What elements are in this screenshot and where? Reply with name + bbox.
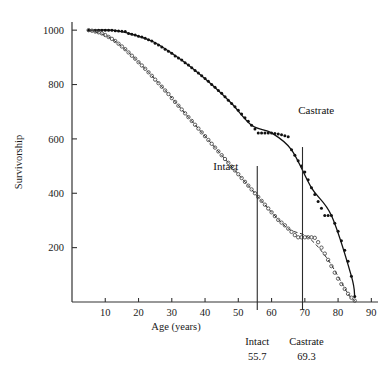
data-point	[350, 275, 353, 278]
x-tick-label: 70	[300, 307, 311, 318]
data-point	[107, 29, 110, 32]
data-point	[170, 52, 173, 55]
intact-median-annotation: Intact 55.7	[245, 336, 269, 362]
data-point	[237, 109, 240, 112]
x-tick-label: 60	[266, 307, 277, 318]
castrate-median-annotation: Castrate 69.3	[289, 336, 324, 362]
data-point	[120, 45, 123, 48]
data-point	[110, 29, 113, 32]
x-tick-labels: 102030405060708090	[100, 307, 377, 318]
data-point	[240, 112, 243, 115]
data-point	[320, 246, 323, 249]
intact-annotation-value: 55.7	[248, 351, 266, 362]
data-point	[330, 214, 333, 217]
data-point	[263, 203, 266, 206]
data-point	[313, 236, 316, 239]
y-tick-label: 400	[48, 188, 64, 199]
data-point	[147, 38, 150, 41]
data-point	[207, 138, 210, 141]
data-point	[180, 59, 183, 62]
data-point	[237, 173, 240, 176]
data-point	[227, 99, 230, 102]
data-point	[104, 29, 107, 32]
data-point	[287, 135, 290, 138]
data-point	[154, 42, 157, 45]
data-point	[200, 74, 203, 77]
data-point	[293, 233, 296, 236]
data-point	[194, 69, 197, 72]
data-point	[137, 35, 140, 38]
data-point	[197, 72, 200, 75]
data-point	[277, 133, 280, 136]
data-point	[210, 142, 213, 145]
castrate-annotation-label: Castrate	[289, 336, 324, 347]
x-tick-label: 10	[100, 307, 111, 318]
data-point	[207, 80, 210, 83]
x-tick-label: 90	[366, 307, 377, 318]
data-point	[130, 54, 133, 57]
data-point	[243, 116, 246, 119]
data-point	[184, 61, 187, 64]
y-tick-label: 200	[48, 242, 64, 253]
data-point	[267, 207, 270, 210]
data-point	[253, 128, 256, 131]
data-point	[164, 48, 167, 51]
y-tick-label: 600	[48, 134, 64, 145]
y-axis-group: 2004006008001000 Survivorship	[13, 22, 77, 302]
data-point	[303, 171, 306, 174]
data-point	[303, 236, 306, 239]
data-point	[307, 178, 310, 181]
data-point	[297, 159, 300, 162]
data-point	[117, 29, 120, 32]
data-point	[100, 32, 103, 35]
y-axis-title: Survivorship	[13, 135, 24, 189]
data-point	[167, 92, 170, 95]
data-point	[230, 102, 233, 105]
data-point	[257, 131, 260, 134]
data-point	[174, 54, 177, 57]
data-point	[317, 200, 320, 203]
data-point	[337, 230, 340, 233]
data-point	[267, 131, 270, 134]
data-point	[250, 124, 253, 127]
data-point	[114, 29, 117, 32]
data-point	[153, 78, 156, 81]
data-point	[220, 92, 223, 95]
chart-canvas: 2004006008001000 Survivorship 1020304050…	[0, 0, 392, 371]
data-point	[346, 292, 349, 295]
data-point	[177, 56, 180, 59]
data-point	[326, 258, 329, 261]
intact-annotation-label: Intact	[245, 336, 269, 347]
castrate-annotation-value: 69.3	[297, 351, 315, 362]
data-point	[187, 63, 190, 66]
survivorship-chart-figure: 2004006008001000 Survivorship 1020304050…	[0, 0, 392, 371]
data-point	[310, 236, 313, 239]
data-point	[217, 89, 220, 92]
data-point	[180, 108, 183, 111]
data-point	[280, 133, 283, 136]
data-point	[120, 30, 123, 33]
x-axis-title: Age (years)	[151, 321, 201, 333]
x-tick-label: 50	[233, 307, 244, 318]
data-point	[280, 221, 283, 224]
data-point	[140, 35, 143, 38]
data-point	[263, 131, 266, 134]
curve-label-intact: Intact	[213, 160, 238, 172]
x-tick-label: 40	[200, 307, 211, 318]
y-tick-marks	[72, 30, 77, 247]
data-point	[333, 222, 336, 225]
x-tick-label: 20	[133, 307, 144, 318]
y-tick-labels: 2004006008001000	[43, 25, 64, 253]
data-point	[320, 207, 323, 210]
median-drop-lines-group	[257, 147, 302, 310]
data-point	[224, 95, 227, 98]
data-point	[134, 34, 137, 37]
data-point	[260, 131, 263, 134]
data-point	[296, 236, 299, 239]
y-tick-label: 1000	[43, 25, 64, 36]
data-point	[233, 105, 236, 108]
data-point	[310, 186, 313, 189]
data-point	[150, 40, 153, 43]
data-point	[100, 29, 103, 32]
data-point	[293, 154, 296, 157]
